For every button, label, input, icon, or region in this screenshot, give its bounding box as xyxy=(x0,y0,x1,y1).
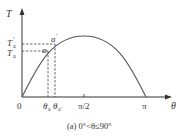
point-a-prime: a ' xyxy=(51,32,57,44)
svg-text:': ' xyxy=(61,106,62,112)
x-tick-pi: π xyxy=(142,101,147,111)
y-tick-ta: T a xyxy=(7,48,16,59)
svg-text:a: a xyxy=(13,53,16,59)
x-axis-label: θ xyxy=(171,100,176,111)
svg-text:a: a xyxy=(13,43,16,49)
svg-text:': ' xyxy=(13,35,14,43)
y-axis-arrow-icon xyxy=(20,8,25,15)
x-axis-arrow-icon xyxy=(165,95,172,100)
svg-text:a: a xyxy=(48,106,51,112)
x-tick-pi-half: π/2 xyxy=(78,101,90,111)
diagram-canvas: T θ T a ' T a a ' a 0 θ a θ a ' π/2 π (a… xyxy=(0,0,182,136)
svg-text:': ' xyxy=(56,32,57,40)
caption: (a) 0°<θ≤90° xyxy=(67,121,112,131)
x-tick-theta-a: θ a xyxy=(43,101,51,112)
sine-curve xyxy=(22,36,146,97)
y-axis-label: T xyxy=(6,8,13,19)
y-tick-ta-prime: T a ' xyxy=(7,35,16,49)
origin-label: 0 xyxy=(17,101,22,111)
point-a: a xyxy=(42,45,47,55)
svg-text:a: a xyxy=(42,45,47,55)
x-tick-theta-a-prime: θ a ' xyxy=(53,101,62,112)
